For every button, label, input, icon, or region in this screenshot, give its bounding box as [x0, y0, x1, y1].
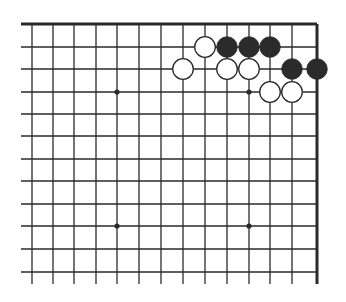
- white-stone: [282, 82, 303, 103]
- black-stone: [282, 59, 303, 80]
- white-stone: [195, 37, 216, 58]
- white-stone: [173, 59, 194, 80]
- star-point: [246, 89, 251, 94]
- black-stone: [260, 37, 281, 58]
- go-board: [0, 0, 346, 302]
- board-grid: [21, 24, 317, 284]
- star-point: [114, 223, 119, 228]
- white-stone: [260, 82, 281, 103]
- black-stone: [217, 37, 238, 58]
- white-stone: [239, 59, 260, 80]
- star-point: [246, 223, 251, 228]
- black-stone: [239, 37, 260, 58]
- white-stone: [217, 59, 238, 80]
- star-point: [114, 89, 119, 94]
- black-stone: [307, 59, 328, 80]
